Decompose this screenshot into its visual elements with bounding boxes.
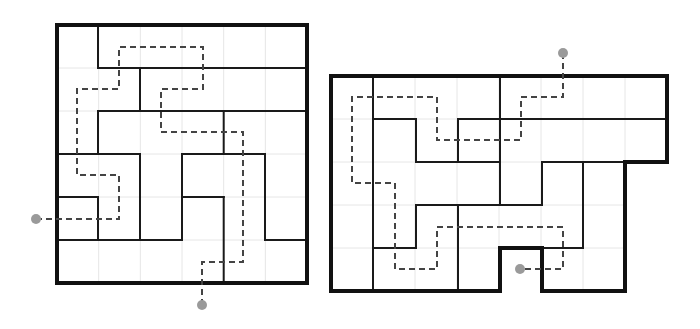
- region-walls: [373, 76, 667, 291]
- right-maze-puzzle: [331, 48, 667, 291]
- path-end-dot: [515, 264, 525, 274]
- path-start-dot: [31, 214, 41, 224]
- path-start-dot: [558, 48, 568, 58]
- path-end-dot: [197, 300, 207, 310]
- left-maze-puzzle: [31, 25, 307, 310]
- puzzle-canvas: [0, 0, 700, 329]
